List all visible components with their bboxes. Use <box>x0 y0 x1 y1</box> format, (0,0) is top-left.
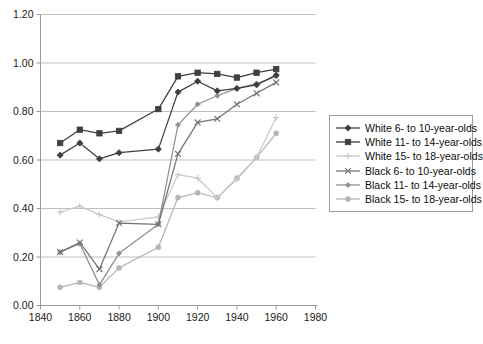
y-axis-ticks: 0.000.200.400.600.801.001.20 <box>13 8 40 311</box>
x-tick-label: 1880 <box>107 311 131 323</box>
legend-marker-plus-icon <box>335 150 361 162</box>
x-tick-label: 1920 <box>186 311 210 323</box>
marker-diamond <box>116 150 122 156</box>
y-tick-label: 1.00 <box>13 57 34 69</box>
series-4 <box>58 74 279 288</box>
y-tick-label: 0.60 <box>13 154 34 166</box>
y-tick-label: 1.20 <box>13 8 34 20</box>
legend-marker-diamond-icon <box>335 122 361 134</box>
marker-diamond <box>234 85 240 91</box>
marker-square <box>215 71 220 76</box>
y-tick-label: 0.40 <box>13 202 34 214</box>
x-tick-label: 1900 <box>147 311 171 323</box>
marker-circle <box>58 285 63 290</box>
marker-square <box>77 127 82 132</box>
marker-circle <box>156 245 161 250</box>
legend-item-2[interactable]: White 15- to 18-year-olds <box>335 149 465 163</box>
marker-square <box>156 106 161 111</box>
x-tick-label: 1840 <box>29 311 53 323</box>
series-line <box>60 133 276 287</box>
legend-marker-x-icon <box>335 165 361 177</box>
marker-square <box>116 128 121 133</box>
x-tick-label: 1980 <box>304 311 328 323</box>
marker-square <box>195 70 200 75</box>
marker-circle <box>274 131 279 136</box>
series-0 <box>57 72 279 162</box>
marker-circle <box>117 265 122 270</box>
legend-label: Black 11- to 14-year-olds <box>365 179 481 191</box>
marker-dash <box>345 182 350 187</box>
marker-diamond <box>195 78 201 84</box>
marker-diamond <box>57 152 63 158</box>
y-tick-label: 0.20 <box>13 251 34 263</box>
legend-item-4[interactable]: Black 11- to 14-year-olds <box>335 178 465 192</box>
y-tick-label: 0.00 <box>13 299 34 311</box>
marker-diamond <box>155 146 161 152</box>
x-tick-label: 1960 <box>265 311 289 323</box>
chart-legend: White 6- to 10-year-oldsWhite 11- to 14-… <box>329 115 473 212</box>
series-line <box>60 118 276 222</box>
legend-marker-square-icon <box>335 136 361 148</box>
x-axis-ticks: 18401860188019001920194019601980 <box>29 306 328 324</box>
legend-marker-dash-icon <box>335 179 361 191</box>
marker-square <box>234 75 239 80</box>
legend-item-0[interactable]: White 6- to 10-year-olds <box>335 121 465 135</box>
gridlines <box>41 15 316 306</box>
legend-label: White 11- to 14-year-olds <box>365 136 482 148</box>
marker-diamond <box>214 88 220 94</box>
legend-item-5[interactable]: Black 15- to 18-year-olds <box>335 192 465 206</box>
marker-square <box>175 74 180 79</box>
marker-circle <box>195 190 200 195</box>
legend-label: Black 15- to 18-year-olds <box>365 193 482 205</box>
y-tick-label: 0.80 <box>13 105 34 117</box>
legend-label: White 6- to 10-year-olds <box>365 122 477 134</box>
marker-circle <box>77 280 82 285</box>
x-tick-label: 1940 <box>225 311 249 323</box>
x-tick-label: 1860 <box>68 311 92 323</box>
marker-square <box>97 131 102 136</box>
marker-square <box>254 70 259 75</box>
marker-circle <box>346 197 351 202</box>
legend-marker-circle-icon <box>335 193 361 205</box>
marker-circle <box>176 195 181 200</box>
series-line <box>60 76 276 285</box>
series-line <box>60 75 276 159</box>
legend-label: Black 6- to 10-year-olds <box>365 165 476 177</box>
marker-diamond <box>345 125 351 131</box>
marker-square <box>345 140 350 145</box>
legend-label: White 15- to 18-year-olds <box>365 150 483 162</box>
legend-item-1[interactable]: White 11- to 14-year-olds <box>335 135 465 149</box>
series-1 <box>57 66 278 145</box>
marker-square <box>274 66 279 71</box>
series-line <box>60 69 276 143</box>
marker-square <box>57 140 62 145</box>
legend-item-3[interactable]: Black 6- to 10-year-olds <box>335 164 465 178</box>
marker-diamond <box>175 89 181 95</box>
